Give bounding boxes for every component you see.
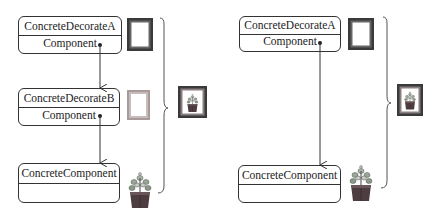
plant-icon bbox=[350, 166, 372, 202]
left-arrows bbox=[98, 43, 102, 163]
dark-frame-icon bbox=[348, 18, 374, 50]
light-frame-icon bbox=[127, 90, 150, 120]
framed-plant-picture-icon bbox=[397, 84, 423, 116]
right-arrows bbox=[318, 41, 322, 165]
curly-brace bbox=[381, 17, 391, 188]
curly-brace bbox=[158, 18, 168, 193]
diagram-overlay bbox=[0, 0, 435, 219]
dark-frame-icon bbox=[127, 18, 153, 51]
plant-icon bbox=[129, 173, 151, 209]
framed-plant-picture-icon bbox=[178, 86, 207, 118]
